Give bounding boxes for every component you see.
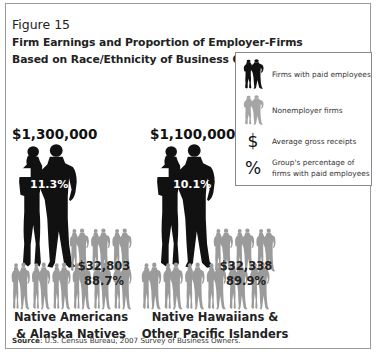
grey-people-icon [242, 95, 264, 125]
figure-label: Figure 15 [12, 17, 70, 32]
group2-employer-silhouette [152, 143, 216, 269]
group1-employer-receipts: $1,300,000 [12, 126, 97, 142]
source-label: Source [12, 336, 40, 345]
legend-item-employer: Firms with paid employees [242, 59, 371, 89]
black-people-icon [242, 59, 264, 89]
group2-employer-pct: 10.1% [173, 178, 211, 191]
legend-item-nonemployer: Nonemployer firms [242, 95, 343, 125]
group1-nonemployer-pct: 88.7% [72, 274, 136, 289]
group2-nonemployer-values: $32,338 89.9% [214, 259, 278, 289]
legend-item-percentage: % Group's percentage of firms with paid … [242, 157, 370, 179]
legend-item-receipts: $ Average gross receipts [242, 131, 356, 151]
group2-nonemployer-receipts: $32,338 [214, 259, 278, 274]
legend: Firms with paid employees Nonemployer fi… [235, 52, 372, 186]
legend-label: Average gross receipts [272, 136, 356, 147]
legend-label: Group's percentage of firms with paid em… [272, 157, 370, 179]
percent-icon: % [242, 158, 264, 178]
dollar-icon: $ [242, 131, 264, 151]
group2-nonemployer-pct: 89.9% [214, 274, 278, 289]
legend-label: Firms with paid employees [272, 69, 371, 80]
figure-title-line1: Firm Earnings and Proportion of Employer… [12, 34, 303, 51]
group1-employer-pct: 11.3% [30, 178, 68, 191]
source-note: Source: U.S. Census Bureau, 2007 Survey … [12, 336, 240, 345]
source-text: : U.S. Census Bureau, 2007 Survey of Bus… [40, 336, 241, 345]
group1-nonemployer-values: $32,803 88.7% [72, 259, 136, 289]
group1-nonemployer-receipts: $32,803 [72, 259, 136, 274]
legend-label: Nonemployer firms [272, 105, 343, 116]
group2-employer-receipts: $1,100,000 [150, 126, 235, 142]
